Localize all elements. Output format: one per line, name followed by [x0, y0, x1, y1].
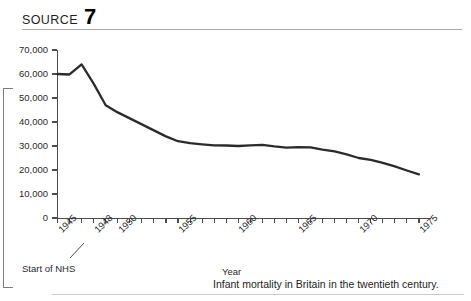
y-axis-tick-label: 70,000: [0, 44, 48, 55]
x-axis-tick-label: 1960: [236, 212, 259, 235]
x-axis-tick: [274, 218, 275, 223]
x-axis-tick: [394, 218, 395, 223]
y-axis-tick: [52, 193, 57, 194]
y-axis-tick: [52, 169, 57, 170]
y-axis-tick-label: 10,000: [0, 188, 48, 199]
annotation-start-of-nhs: Start of NHS: [22, 263, 75, 274]
x-axis-tick: [57, 218, 58, 223]
y-axis-tick-label: 40,000: [0, 116, 48, 127]
source-figure-panel: SOURCE 7 70,00060,00050,00040,00030,0002…: [0, 0, 471, 301]
y-axis-tick: [52, 97, 57, 98]
data-series-layer: [0, 0, 471, 301]
x-axis-tick: [202, 218, 203, 223]
nhs-leader-line: [70, 243, 84, 258]
x-axis-tick: [238, 218, 239, 223]
x-axis-tick: [141, 218, 142, 223]
x-axis-title: Year: [222, 266, 241, 277]
y-axis-tick: [52, 73, 57, 74]
y-axis-tick-label: 0: [0, 212, 48, 223]
x-axis-tick-label: 1950: [116, 212, 139, 235]
x-axis-tick: [322, 218, 323, 223]
series-line-infant-deaths: [58, 64, 419, 174]
x-axis-tick: [406, 218, 407, 223]
x-axis-tick: [153, 218, 154, 223]
x-axis-tick: [286, 218, 287, 223]
x-axis-tick: [177, 218, 178, 223]
y-axis-tick-label: 20,000: [0, 164, 48, 175]
x-axis-tick-label: 1965: [296, 212, 319, 235]
x-axis-tick: [81, 218, 82, 223]
y-axis-tick-label: 30,000: [0, 140, 48, 151]
x-axis-tick-label: 1955: [176, 212, 199, 235]
y-axis-tick: [52, 145, 57, 146]
y-axis-tick-label: 60,000: [0, 68, 48, 79]
x-axis-tick: [358, 218, 359, 223]
x-axis-tick: [165, 218, 166, 223]
y-axis-tick: [52, 49, 57, 50]
x-axis-tick: [117, 218, 118, 223]
x-axis-tick: [382, 218, 383, 223]
line-chart: 70,00060,00050,00040,00030,00020,00010,0…: [0, 0, 471, 301]
y-axis-line: [57, 50, 58, 219]
figure-caption: Infant mortality in Britain in the twent…: [213, 278, 439, 290]
x-axis-tick-label: 1948: [92, 212, 115, 235]
x-axis-tick: [346, 218, 347, 223]
x-axis-tick: [93, 218, 94, 223]
x-axis-tick-label: 1970: [357, 212, 380, 235]
x-axis-tick: [262, 218, 263, 223]
x-axis-tick: [334, 218, 335, 223]
y-axis-tick-label: 50,000: [0, 92, 48, 103]
y-axis-tick: [52, 121, 57, 122]
x-axis-tick: [418, 218, 419, 223]
x-axis-tick: [226, 218, 227, 223]
x-axis-tick-label: 1945: [56, 212, 79, 235]
x-axis-tick-label: 1975: [417, 212, 440, 235]
x-axis-tick: [214, 218, 215, 223]
caption-rule: [52, 294, 464, 295]
